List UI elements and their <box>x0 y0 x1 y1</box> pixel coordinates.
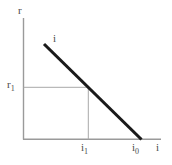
x-tick-label-i0-subscript: 0 <box>135 147 139 156</box>
x-tick-label-i1: i1 <box>81 142 88 156</box>
y-tick-label-r1-subscript: 1 <box>11 84 15 93</box>
diagram-canvas <box>0 0 172 165</box>
x-axis-label: i <box>156 142 159 153</box>
x-tick-label-i0: i0 <box>132 142 139 156</box>
investment-demand-curve-line <box>44 44 142 140</box>
x-tick-label-i1-subscript: 1 <box>84 147 88 156</box>
y-axis-label: r <box>18 5 22 16</box>
y-tick-label-r1: r1 <box>7 79 15 93</box>
investment-demand-diagram: r i i r1 i1 i0 <box>0 0 172 165</box>
curve-label: i <box>53 33 56 44</box>
